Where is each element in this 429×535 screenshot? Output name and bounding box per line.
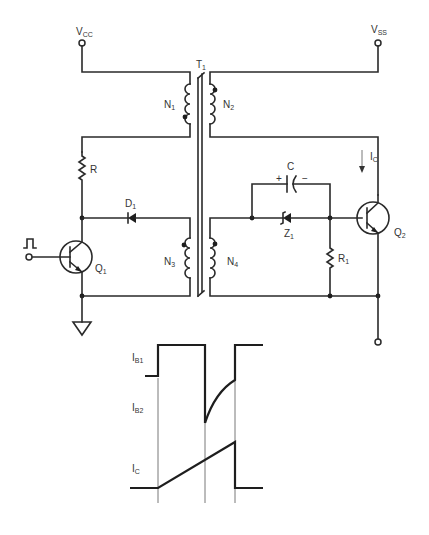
- r-label: R: [90, 164, 97, 175]
- output-terminal: [375, 339, 381, 345]
- c-plus-label: +: [276, 173, 282, 184]
- n2-label: N2: [223, 99, 234, 111]
- wire-vss-n2: [210, 46, 378, 84]
- vss-terminal: [375, 40, 381, 46]
- waveform-chart: IB1 IB2 IC: [130, 345, 263, 503]
- n3-polarity-dot: [182, 243, 187, 248]
- r1-label: R1: [338, 253, 349, 265]
- svg-text:T1: T1: [196, 59, 206, 71]
- c-minus-label: −: [302, 173, 308, 184]
- n4-polarity-dot: [213, 242, 218, 247]
- q1-input-terminal[interactable]: [26, 254, 32, 260]
- pulse-icon: [24, 239, 36, 248]
- n4-label: N4: [227, 256, 238, 268]
- vss-label: VSS: [371, 24, 387, 36]
- diode-d1-icon: [128, 213, 136, 223]
- c-label: C: [287, 161, 294, 172]
- n2-polarity-dot: [213, 88, 218, 93]
- ib1-label: IB1: [132, 352, 143, 364]
- wire-d1-n3: [136, 218, 190, 238]
- ib2-label: IB2: [132, 402, 143, 414]
- svg-text:VCC: VCC: [76, 26, 93, 38]
- circuit-diagram: VCC VSS N1 T1 N2 IC R D1 N3: [0, 0, 429, 535]
- q2-label: Q2: [394, 227, 406, 239]
- ib-waveform: [145, 345, 205, 423]
- ic-label: IC: [370, 151, 378, 163]
- wire-n1-r: [82, 124, 190, 152]
- t1-label: T1: [196, 59, 206, 71]
- wire-vcc-n1: [82, 46, 190, 84]
- q1-label: Q1: [95, 263, 107, 275]
- svg-text:VSS: VSS: [371, 24, 387, 36]
- n3-label: N3: [164, 256, 175, 268]
- ic-waveform: [130, 442, 263, 488]
- junction: [328, 294, 333, 299]
- n1-polarity-dot: [183, 115, 188, 120]
- resistor-r1-icon: [327, 218, 333, 296]
- vcc-terminal: [79, 40, 85, 46]
- vcc-label: VCC: [76, 26, 93, 38]
- zener-z1-icon: [283, 213, 291, 223]
- n1-label: N1: [164, 99, 175, 111]
- z1-label: Z1: [284, 228, 294, 240]
- ic-wave-label: IC: [132, 463, 140, 475]
- d1-label: D1: [125, 198, 136, 210]
- resistor-r-icon: [79, 152, 85, 218]
- ground-icon: [73, 322, 91, 335]
